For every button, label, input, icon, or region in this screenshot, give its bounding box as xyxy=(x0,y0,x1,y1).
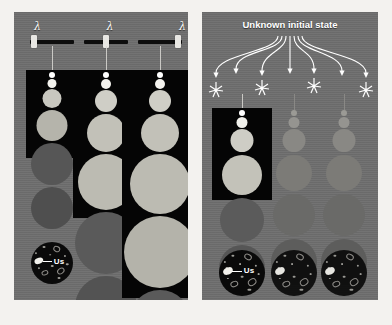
galaxy-speck xyxy=(283,254,286,256)
galaxy-speck xyxy=(282,280,291,288)
galaxy-speck xyxy=(42,246,45,248)
initial-condition-burst xyxy=(358,82,374,98)
burst-icon xyxy=(208,82,224,98)
galaxy-speck xyxy=(350,288,353,290)
universe-bubble xyxy=(95,90,117,112)
galaxy-speck xyxy=(332,280,341,288)
universe-bubble xyxy=(220,198,264,242)
initial-condition-burst xyxy=(306,78,322,94)
branch-arrow-line xyxy=(216,36,278,73)
branch-arrow-head xyxy=(287,69,292,75)
unknown-initial-state-panel: Unknown initial state Us xyxy=(202,12,378,300)
milky-way-marker xyxy=(324,266,336,276)
universe-bubble xyxy=(149,90,171,112)
galaxy-speck xyxy=(341,263,343,265)
galaxy-speck xyxy=(309,273,312,275)
galaxy-speck xyxy=(307,264,309,266)
universe-bubble xyxy=(231,129,254,152)
galaxy-speck xyxy=(343,276,346,278)
cosmology-figure: λλλ Us Unknown initial state Us xyxy=(0,0,392,325)
burst-icon xyxy=(306,78,322,94)
evolution-stem xyxy=(294,94,295,110)
galaxy-speck xyxy=(49,254,51,256)
burst-icon xyxy=(254,80,270,96)
universe-bubble xyxy=(273,194,315,236)
universe-bubble xyxy=(31,143,73,185)
galaxy-speck xyxy=(57,277,60,279)
galaxy-speck xyxy=(279,278,281,280)
galaxy-speck xyxy=(333,254,336,256)
galaxy-speck xyxy=(291,263,293,265)
galaxy-speck xyxy=(52,244,61,253)
galaxy-speck xyxy=(325,261,327,263)
branch-arrow-line xyxy=(262,36,286,71)
slider-handle[interactable] xyxy=(31,35,37,48)
galaxy-speck xyxy=(359,273,362,275)
universe-bubble xyxy=(101,79,111,89)
galaxy-speck xyxy=(349,277,360,288)
us-observable-universe-disc: Us xyxy=(31,242,73,284)
galaxy-speck xyxy=(38,267,40,269)
universe-bubble xyxy=(43,89,62,108)
us-pointer-line xyxy=(43,261,52,262)
us-pointer-line xyxy=(232,271,242,272)
lambda-symbol: λ xyxy=(107,21,114,32)
us-label: Us xyxy=(54,258,65,266)
universe-bubble xyxy=(48,79,57,88)
galaxy-speck xyxy=(345,253,355,262)
branch-arrow-head xyxy=(311,69,316,75)
us-observable-universe-disc xyxy=(321,250,367,296)
us-observable-universe-disc: Us xyxy=(219,250,265,296)
galaxy-speck xyxy=(243,253,253,262)
branch-arrow-head xyxy=(233,69,238,75)
galaxy-speck xyxy=(257,273,260,275)
galaxy-speck xyxy=(66,263,69,265)
universe-bubble xyxy=(155,79,165,89)
galaxy-speck xyxy=(227,278,229,280)
universe-bubble xyxy=(291,110,297,116)
branch-arrow-head xyxy=(363,73,368,79)
universe-bubble xyxy=(326,155,362,191)
universe-bubble xyxy=(37,110,68,141)
galaxy-speck xyxy=(293,276,296,278)
slider-track[interactable] xyxy=(30,40,74,44)
galaxy-speck xyxy=(299,277,310,288)
milky-way-marker xyxy=(274,266,286,276)
galaxy-speck xyxy=(239,263,241,265)
galaxy-speck xyxy=(247,277,258,288)
universe-bubble xyxy=(157,72,163,78)
branch-arrow-line xyxy=(302,36,366,73)
galaxy-speck xyxy=(56,266,66,276)
lambda-symbol: λ xyxy=(179,21,186,32)
galaxy-speck xyxy=(300,288,303,290)
universe-bubble xyxy=(276,155,312,191)
initial-condition-burst xyxy=(254,80,270,96)
universe-bubble xyxy=(31,187,73,229)
lambda-symbol: λ xyxy=(34,21,41,32)
universe-bubble xyxy=(237,117,248,128)
galaxy-speck xyxy=(329,278,331,280)
branch-arrow-head xyxy=(213,73,218,79)
evolution-stem xyxy=(344,94,345,110)
universe-bubble xyxy=(333,129,356,152)
galaxy-speck xyxy=(248,288,251,290)
branch-arrow-head xyxy=(339,71,344,77)
universe-bubble xyxy=(49,72,55,78)
tunable-lambda-panel: λλλ Us xyxy=(14,12,188,300)
universe-bubble xyxy=(130,154,188,214)
galaxy-speck xyxy=(41,269,49,276)
galaxy-speck xyxy=(241,276,244,278)
slider-handle[interactable] xyxy=(175,35,181,48)
universe-bubble xyxy=(341,110,347,116)
universe-bubble xyxy=(289,117,300,128)
universe-bubble xyxy=(222,155,262,195)
universe-bubble xyxy=(141,114,179,152)
galaxy-speck xyxy=(275,261,277,263)
galaxy-speck xyxy=(357,264,359,266)
universe-bubble xyxy=(323,194,365,236)
us-observable-universe-disc xyxy=(271,250,317,296)
initial-condition-burst xyxy=(208,82,224,98)
galaxy-speck xyxy=(35,252,37,254)
universe-bubble xyxy=(124,216,188,288)
galaxy-speck xyxy=(255,264,257,266)
